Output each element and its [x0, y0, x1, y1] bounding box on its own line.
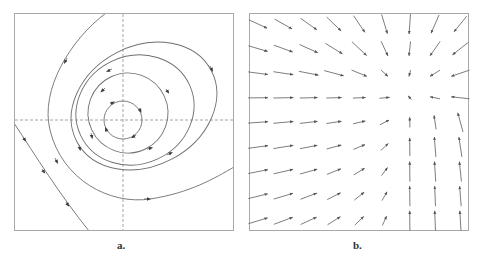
vector-arrow	[430, 97, 440, 99]
vector-arrow	[300, 45, 318, 53]
vector-arrow	[299, 71, 319, 75]
phase-portrait	[0, 0, 239, 231]
vector-arrow	[327, 169, 341, 175]
vector-arrow	[459, 137, 462, 157]
vector-arrow	[275, 19, 292, 29]
vector-arrow	[454, 16, 467, 32]
vector-arrow	[459, 162, 461, 182]
vector-arrow	[274, 169, 293, 173]
vector-arrow	[409, 14, 410, 34]
vector-arrow	[353, 145, 365, 150]
vector-arrow	[248, 122, 268, 123]
vector-arrow	[382, 14, 388, 33]
panel-b-label: b.	[353, 239, 362, 251]
vector-arrow	[435, 186, 436, 206]
vector-arrow	[381, 41, 388, 55]
vector-arrow	[381, 144, 388, 151]
vector-arrow	[435, 162, 436, 182]
vector-arrow	[354, 192, 364, 200]
vector-arrow	[381, 70, 388, 76]
vector-arrow	[300, 18, 316, 30]
vector-arrow	[248, 146, 268, 149]
vector-arrow	[431, 15, 439, 33]
vector-arrow	[380, 97, 390, 98]
vector-arrow	[458, 113, 463, 132]
vector-arrow	[355, 216, 364, 225]
vector-arrow	[274, 193, 293, 199]
vector-arrow	[328, 217, 341, 225]
vector-arrow	[249, 20, 267, 28]
vector-arrow	[409, 41, 411, 55]
vector-arrow	[300, 169, 317, 174]
vector-arrow	[353, 121, 365, 124]
vector-arrow	[300, 193, 316, 199]
vector-arrow	[430, 70, 440, 76]
vector-arrow	[354, 168, 365, 175]
vector-arrow	[248, 194, 267, 199]
vector-arrow	[460, 211, 461, 231]
vector-arrow	[327, 145, 342, 149]
vector-arrow	[273, 72, 293, 75]
vector-arrow	[430, 41, 440, 55]
vector-arrow	[382, 216, 386, 225]
diagram-canvas	[0, 0, 478, 258]
vector-arrow	[248, 170, 268, 174]
vector-arrow	[300, 145, 317, 148]
vector-arrow	[352, 70, 367, 76]
vector-arrow	[353, 98, 366, 99]
vector-arrow	[301, 217, 317, 224]
open-curve	[48, 13, 234, 200]
vector-arrow	[248, 218, 267, 224]
vector-arrow	[327, 193, 340, 200]
vector-arrow	[408, 96, 411, 100]
vector-arrow	[274, 217, 293, 224]
vector-arrow	[248, 46, 267, 52]
vector-arrow	[460, 186, 462, 206]
vector-arrow	[300, 121, 318, 123]
vector-field-arrows	[248, 14, 470, 231]
vector-arrow	[435, 211, 436, 231]
outer-ellipse-orbit	[49, 17, 240, 194]
vector-arrow	[248, 72, 268, 75]
vector-arrow	[434, 115, 436, 129]
vector-arrow	[324, 71, 343, 76]
vector-arrow	[434, 137, 436, 157]
vector-arrow	[326, 121, 341, 123]
vector-arrow	[409, 70, 411, 76]
vector-arrow	[380, 120, 389, 125]
vector-arrow	[352, 42, 367, 56]
vector-arrow	[451, 97, 469, 99]
vector-arrow	[325, 43, 342, 53]
vector-arrow	[274, 45, 293, 52]
vector-arrow	[451, 70, 469, 76]
vector-arrow	[273, 145, 293, 148]
panel-a-label: a.	[117, 239, 125, 251]
vector-arrow	[382, 192, 387, 201]
vector-arrow	[354, 16, 365, 33]
mid2-ellipse-orbit	[58, 36, 212, 185]
vector-arrow	[382, 168, 388, 176]
vector-arrow	[453, 42, 469, 54]
vector-arrow	[327, 17, 341, 31]
vector-arrow	[273, 122, 293, 124]
